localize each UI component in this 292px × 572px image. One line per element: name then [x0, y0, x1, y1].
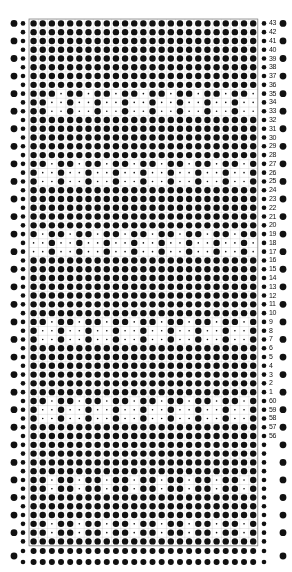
dot-matrix-pattern-chart	[0, 0, 292, 572]
pattern-chart-canvas-stage: 4342414039383736353433323130292827262524…	[0, 0, 292, 572]
